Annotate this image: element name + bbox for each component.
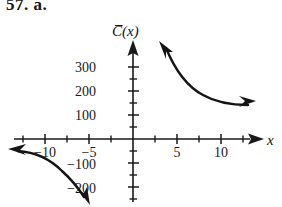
y-tick-label: 300 [75,60,96,75]
x-axis-tick-labels: −10 −5 5 10 [34,145,228,160]
x-tick-label: 5 [174,145,181,160]
y-axis-label-text: C̅(x) [112,23,139,40]
figure-page: 57. a. [0,0,282,207]
y-tick-label: 200 [75,84,96,99]
graph-figure: C̅(x) x 300 200 100 −100 −200 −10 −5 5 1… [0,0,282,207]
x-axis-label-text: x [266,132,274,148]
y-axis [128,40,139,202]
curve-branch-quadrant-one [159,41,256,107]
x-tick-label: 10 [214,145,228,160]
y-axis-label: C̅(x) [112,23,139,40]
y-axis-tick-labels: 300 200 100 −100 −200 [67,60,96,196]
y-tick-label: 100 [75,108,96,123]
x-tick-label: −5 [82,145,97,160]
x-axis [14,134,264,145]
